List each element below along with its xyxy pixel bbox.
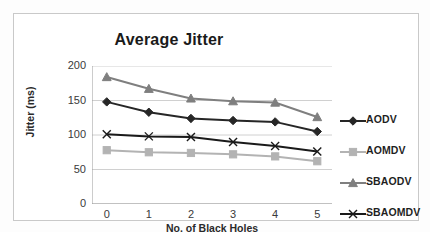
diamond-marker-icon [145, 108, 153, 116]
series-aodv [103, 98, 322, 136]
square-marker-icon [314, 158, 321, 165]
cross-marker-icon [340, 206, 366, 218]
chart-legend: AODVAOMDVSBAODVSBAOMDV [340, 107, 430, 231]
x-tick-label: 1 [137, 208, 161, 220]
y-tick-label: 150 [52, 94, 86, 106]
y-tick-label: 200 [52, 59, 86, 71]
diamond-marker-icon [313, 127, 321, 135]
square-marker-icon [145, 149, 152, 156]
square-marker-icon [272, 153, 279, 160]
y-tick-label: 100 [52, 128, 86, 140]
x-tick-label: 0 [95, 208, 119, 220]
figure-canvas: Average Jitter Jitter (ms) 050100150200 … [0, 0, 430, 232]
diamond-marker-icon [103, 98, 111, 106]
legend-item-sbaodv[interactable]: SBAODV [340, 169, 430, 192]
series-aomdv [103, 147, 321, 165]
chart-title: Average Jitter [14, 31, 324, 49]
legend-label: AODV [366, 113, 397, 125]
x-tick-label: 3 [221, 208, 245, 220]
series-sbaodv [102, 73, 321, 121]
legend-item-aodv[interactable]: AODV [340, 107, 430, 130]
diamond-marker-icon [271, 118, 279, 126]
legend-swatch-graphic [340, 208, 366, 220]
legend-swatch-graphic [340, 146, 366, 158]
chart-frame: Average Jitter Jitter (ms) 050100150200 … [13, 13, 419, 221]
square-marker-icon [229, 151, 236, 158]
legend-swatch-graphic [340, 115, 366, 127]
y-tick-label: 50 [52, 163, 86, 175]
legend-label: SBAODV [366, 175, 412, 187]
legend-label: SBAOMDV [366, 206, 420, 218]
x-axis-tick-labels: 012345 [92, 208, 332, 222]
legend-label: AOMDV [366, 144, 406, 156]
y-axis-title: Jitter (ms) [24, 87, 36, 138]
y-axis-tick-labels: 050100150200 [52, 66, 86, 204]
diamond-marker-icon [349, 116, 357, 124]
legend-item-aomdv[interactable]: AOMDV [340, 138, 430, 161]
diamond-marker-icon [229, 116, 237, 124]
square-marker-icon [340, 144, 366, 156]
square-marker-icon [187, 149, 194, 156]
legend-swatch-graphic [340, 177, 366, 189]
plot-area [92, 66, 332, 204]
square-marker-icon [103, 147, 110, 154]
diamond-marker-icon [340, 113, 366, 125]
x-tick-label: 2 [179, 208, 203, 220]
series-line [107, 77, 318, 117]
series-line [107, 150, 318, 161]
legend-item-sbaomdv[interactable]: SBAOMDV [340, 200, 430, 223]
x-axis-title: No. of Black Holes [92, 222, 332, 232]
diamond-marker-icon [187, 114, 195, 122]
series-line [107, 134, 318, 151]
triangle-marker-icon [340, 175, 366, 187]
x-tick-label: 5 [305, 208, 329, 220]
triangle-marker-icon [102, 73, 111, 81]
square-marker-icon [349, 148, 356, 155]
x-tick-label: 4 [263, 208, 287, 220]
series-canvas [92, 66, 332, 204]
y-tick-label: 0 [52, 197, 86, 209]
